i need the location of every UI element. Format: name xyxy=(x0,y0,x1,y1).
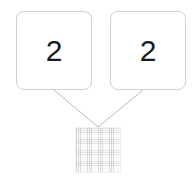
left-addend-box[interactable]: 2 xyxy=(16,11,92,90)
right-addend-box[interactable]: 2 xyxy=(110,11,186,90)
sum-value xyxy=(75,127,121,173)
right-connector-line xyxy=(98,90,143,127)
number-bond-canvas: 2 2 xyxy=(0,0,192,180)
left-connector-line xyxy=(54,90,98,127)
right-addend-value: 2 xyxy=(140,36,157,66)
left-addend-value: 2 xyxy=(46,36,63,66)
